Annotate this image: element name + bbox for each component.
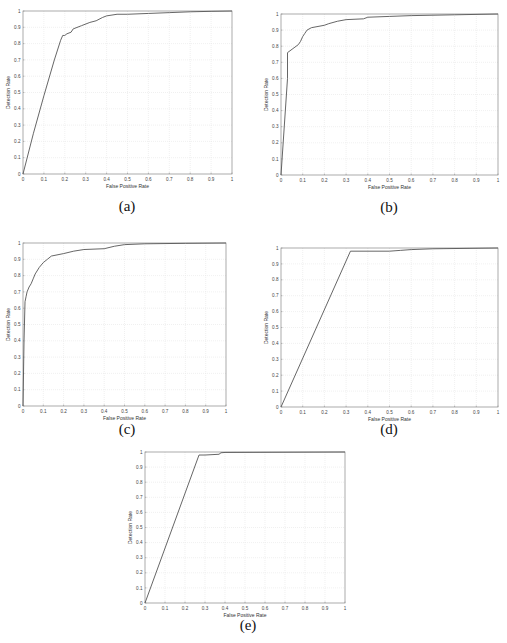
x-tick-label: 0 [144,606,147,611]
y-tick-label: 0.9 [14,25,21,30]
x-tick-label: 0.2 [62,177,69,182]
y-tick-label: 0.3 [14,123,21,128]
x-tick-label: 0.6 [408,410,415,415]
y-tick-label: 0.2 [14,371,21,376]
x-tick-label: 0.7 [166,177,173,182]
y-tick-label: 0 [276,405,279,410]
y-tick-label: 1 [276,12,279,17]
roc-chart-b: 00.10.20.30.40.50.60.70.80.9100.10.20.30… [281,14,498,175]
grid-lines [281,248,498,407]
x-tick-label: 0.9 [473,410,480,415]
x-tick-label: 0 [280,178,283,183]
x-tick-label: 0.8 [451,178,458,183]
x-tick-label: 0.4 [365,178,372,183]
y-tick-label: 0 [18,404,21,409]
x-tick-label: 0.3 [202,606,209,611]
plot-area: 00.10.20.30.40.50.60.70.80.9100.10.20.30… [281,14,498,175]
grid-lines [23,243,226,406]
x-tick-label: 0.1 [40,409,47,414]
y-tick-label: 0.7 [272,293,279,298]
x-tick-label: 0.4 [365,410,372,415]
x-tick-label: 0.1 [162,606,169,611]
y-tick-label: 1 [18,9,21,14]
x-tick-label: 0.2 [321,410,328,415]
y-tick-label: 0.9 [136,465,143,470]
y-axis-title: Detection Rate [127,511,133,544]
x-tick-label: 0.5 [386,410,393,415]
x-tick-label: 0.2 [182,606,189,611]
y-tick-label: 0 [140,601,143,606]
x-tick-label: 0.7 [162,409,169,414]
y-tick-label: 0.6 [14,74,21,79]
x-tick-label: 0.1 [41,177,48,182]
figure-caption-b: (b) [369,199,409,216]
figure-caption-c: (c) [107,421,147,438]
x-tick-label: 0.3 [81,409,88,414]
x-tick-label: 0.8 [302,606,309,611]
y-tick-label: 0.4 [272,108,279,113]
x-tick-label: 0.4 [222,606,229,611]
y-tick-label: 0.9 [272,262,279,267]
x-tick-label: 0.3 [343,178,350,183]
y-tick-label: 0.4 [14,106,21,111]
y-tick-label: 0.7 [272,60,279,65]
tick-labels: 00.10.20.30.40.50.60.70.80.9100.10.20.30… [272,12,500,183]
x-tick-label: 0.4 [101,409,108,414]
x-tick-label: 0.6 [408,178,415,183]
y-tick-label: 0.9 [272,28,279,33]
y-tick-label: 0.6 [272,309,279,314]
y-tick-label: 0.6 [272,76,279,81]
tick-labels: 00.10.20.30.40.50.60.70.80.9100.10.20.30… [14,241,228,414]
roc-chart-e: 00.10.20.30.40.50.60.70.80.9100.10.20.30… [145,452,345,603]
x-tick-label: 0.9 [203,409,210,414]
y-tick-label: 0.6 [14,306,21,311]
x-tick-label: 0 [22,177,25,182]
roc-chart-a: 00.10.20.30.40.50.60.70.80.9100.10.20.30… [23,11,232,174]
y-tick-label: 0.3 [14,355,21,360]
x-tick-label: 0.2 [321,178,328,183]
x-tick-label: 0.7 [430,410,437,415]
figure-caption-a: (a) [107,198,147,215]
x-tick-label: 0.7 [282,606,289,611]
grid-lines [145,452,345,603]
y-tick-label: 0.2 [272,140,279,145]
y-tick-label: 0.5 [272,92,279,97]
tick-labels: 00.10.20.30.40.50.60.70.80.9100.10.20.30… [272,246,500,415]
x-tick-label: 0.8 [187,177,194,182]
y-tick-label: 0.5 [14,322,21,327]
y-tick-label: 0.2 [136,570,143,575]
x-tick-label: 0.5 [121,409,128,414]
x-tick-label: 0.6 [145,177,152,182]
y-tick-label: 0.7 [14,290,21,295]
x-tick-label: 0.7 [430,178,437,183]
y-tick-label: 0.3 [136,555,143,560]
y-tick-label: 0.1 [14,387,21,392]
x-tick-label: 0 [22,409,25,414]
x-tick-label: 1 [497,178,500,183]
y-tick-label: 0.2 [272,373,279,378]
y-axis-title: Detection Rate [263,311,269,344]
x-tick-label: 0.3 [83,177,90,182]
y-tick-label: 0.1 [272,157,279,162]
grid-lines [281,14,498,175]
y-tick-label: 0.5 [14,90,21,95]
y-tick-label: 0.4 [136,540,143,545]
x-tick-label: 0.4 [103,177,110,182]
y-tick-label: 0.2 [14,139,21,144]
x-tick-label: 1 [231,177,234,182]
x-tick-label: 0 [280,410,283,415]
x-tick-label: 1 [344,606,347,611]
x-tick-label: 0.6 [262,606,269,611]
tick-labels: 00.10.20.30.40.50.60.70.80.9100.10.20.30… [136,450,347,611]
y-tick-label: 0.3 [272,124,279,129]
plot-area: 00.10.20.30.40.50.60.70.80.9100.10.20.30… [145,452,345,603]
y-tick-label: 0.8 [272,277,279,282]
y-tick-label: 0.5 [272,325,279,330]
roc-chart-d: 00.10.20.30.40.50.60.70.80.9100.10.20.30… [281,248,498,407]
x-axis-title: False Positive Rate [368,184,411,190]
figure-caption-d: (d) [369,421,409,438]
x-tick-label: 0.9 [208,177,215,182]
x-tick-label: 0.9 [322,606,329,611]
x-tick-label: 0.3 [343,410,350,415]
y-tick-label: 0.9 [14,257,21,262]
